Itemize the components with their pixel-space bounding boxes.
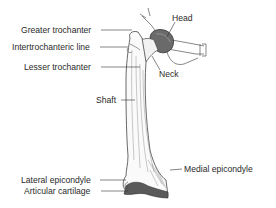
label-intertrochanteric-line: Intertrochanteric line [12,42,90,52]
label-head: Head [172,13,193,23]
label-greater-trochanter: Greater trochanter [21,25,91,35]
label-medial-epicondyle: Medial epicondyle [184,164,253,174]
label-lesser-trochanter: Lesser trochanter [24,62,91,72]
label-lateral-epicondyle: Lateral epicondyle [21,175,91,185]
label-articular-cartilage: Articular cartilage [24,186,90,196]
label-shaft: Shaft [96,95,116,105]
label-neck: Neck [159,69,179,79]
